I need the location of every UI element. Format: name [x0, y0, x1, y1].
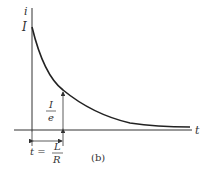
decay-label-num: I: [48, 99, 54, 110]
decay-diagram: i I t I e t = L R (b): [0, 0, 206, 174]
caption: (b): [91, 152, 105, 163]
time-constant-num: L: [53, 141, 61, 152]
initial-value-label: I: [21, 20, 27, 34]
x-axis-label: t: [195, 124, 200, 137]
y-axis-label: i: [24, 5, 28, 18]
decay-curve: [32, 27, 190, 127]
decay-label-den: e: [48, 112, 54, 123]
time-constant-den: R: [52, 154, 61, 165]
time-constant-prefix: t =: [30, 146, 46, 157]
